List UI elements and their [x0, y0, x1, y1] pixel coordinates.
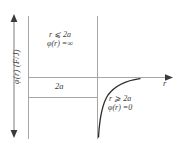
core-diameter-label: 2a [55, 82, 64, 92]
annotation-outside-condition: r ⩾ 2a [108, 94, 132, 103]
annotation-inside-condition: r ⩽ 2a [47, 30, 73, 39]
annotation-inside-value: φ(r) =∞ [47, 39, 73, 48]
annotation-inside-core: r ⩽ 2a φ(r) =∞ [47, 30, 73, 48]
potential-energy-diagram: φ(r) (F/J) r ⩽ 2a φ(r) =∞ r ⩾ 2a φ(r) =0… [0, 0, 177, 148]
y-axis-label: φ(r) (F/J) [12, 20, 21, 114]
annotation-outside-value: φ(r) =0 [108, 103, 132, 112]
annotation-outside-core: r ⩾ 2a φ(r) =0 [108, 94, 132, 112]
diagram-canvas [0, 0, 177, 148]
x-axis-label: r [163, 79, 166, 89]
x-axis [28, 74, 173, 80]
